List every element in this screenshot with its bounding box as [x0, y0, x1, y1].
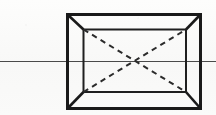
edge-top-right-icon: [186, 15, 201, 30]
diagram-canvas: [0, 0, 216, 115]
edge-bottom-left-icon: [68, 92, 84, 109]
edge-bottom-right-icon: [186, 92, 201, 109]
perspective-diagram: Rectangular box drawn in one-point persp…: [0, 0, 216, 115]
edge-top-left-icon: [68, 15, 84, 30]
